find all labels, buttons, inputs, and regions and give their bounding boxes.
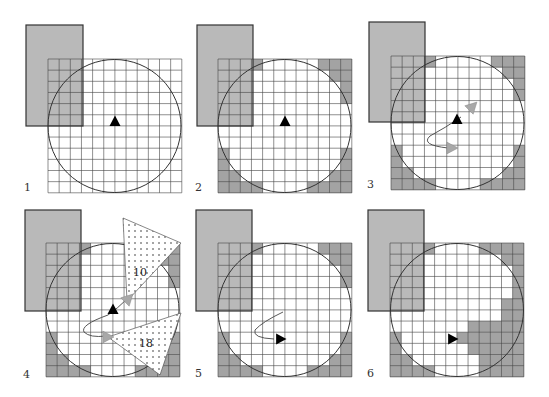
shaded-cell [502,310,513,321]
shaded-cell [330,171,341,182]
shaded-cell [468,343,479,354]
shaded-cell [502,355,513,366]
shaded-cell [490,321,501,332]
shaded-cell [57,366,68,377]
shaded-cell [479,366,490,377]
shaded-cell [341,59,352,70]
panels-group: 1231018456 [23,22,525,381]
shaded-cell [251,366,262,377]
obstacle-rect [368,210,424,311]
shaded-cell [79,366,90,377]
shaded-cell [341,265,352,276]
shaded-cell [424,179,435,190]
panel-6: 6 [367,210,524,380]
panel-number-label: 6 [367,367,374,380]
shaded-cell [169,366,180,377]
shaded-cell [229,182,240,193]
shaded-cell [169,254,180,265]
panel-4: 10184 [23,210,181,381]
shaded-cell [341,159,352,170]
shaded-cell [490,343,501,354]
panel-1: 1 [24,25,182,194]
shaded-cell [46,355,57,366]
shaded-cell [514,67,525,78]
shaded-cell [46,366,57,377]
shaded-cell [330,182,341,193]
shaded-cell [218,366,229,377]
shaded-cell [390,355,401,366]
shaded-cell [514,78,525,89]
shaded-cell [401,355,412,366]
shaded-cell [514,179,525,190]
panel-number-label: 2 [195,181,202,194]
shaded-cell [330,243,341,254]
shaded-cell [341,343,352,354]
obstacle-rect [25,210,81,311]
shaded-cell [423,243,434,254]
shaded-cell [513,366,524,377]
shaded-cell [502,254,513,265]
shaded-cell [330,355,341,366]
shaded-cell [402,179,413,190]
shaded-cell [218,355,229,366]
shaded-cell [468,332,479,343]
shaded-cell [341,254,352,265]
view-cone-label: 10 [133,266,147,279]
panel-number-label: 3 [367,178,374,191]
shaded-cell [502,299,513,310]
panel-number-label: 4 [23,368,30,381]
shaded-cell [502,366,513,377]
shaded-cell [513,343,524,354]
shaded-cell [251,243,262,254]
shaded-cell [229,171,240,182]
shaded-cell [341,171,352,182]
shaded-cell [391,168,402,179]
shaded-cell [513,243,524,254]
panel-3: 3 [367,22,525,191]
shaded-cell [513,332,524,343]
shaded-cell [503,168,514,179]
shaded-cell [491,179,502,190]
shaded-cell [57,355,68,366]
shaded-cell [502,243,513,254]
shaded-cell [412,366,423,377]
obstacle-rect [197,25,253,126]
shaded-cell [424,56,435,67]
shaded-cell [514,56,525,67]
shaded-cell [490,243,501,254]
shaded-cell [457,332,468,343]
shaded-cell [514,156,525,167]
shaded-cell [490,332,501,343]
shaded-cell [390,332,401,343]
shaded-cell [218,171,229,182]
shaded-cell [341,355,352,366]
shaded-cell [423,366,434,377]
shaded-cell [513,276,524,287]
shaded-cell [229,355,240,366]
shaded-cell [341,182,352,193]
shaded-cell [391,179,402,190]
shaded-cell [468,321,479,332]
shaded-cell [330,254,341,265]
shaded-cell [330,366,341,377]
shaded-cell [318,243,329,254]
shaded-cell [390,343,401,354]
shaded-cell [341,243,352,254]
shaded-cell [169,355,180,366]
shaded-cell [218,182,229,193]
shaded-cell [479,321,490,332]
shaded-cell [341,366,352,377]
shaded-cell [318,182,329,193]
shaded-cell [503,56,514,67]
shaded-cell [503,67,514,78]
shaded-cell [513,254,524,265]
panel-2: 2 [195,25,352,194]
shaded-cell [513,265,524,276]
shaded-cell [502,332,513,343]
shaded-cell [318,366,329,377]
shaded-cell [490,366,501,377]
panel-5: 5 [195,210,352,380]
shaded-cell [513,355,524,366]
shaded-cell [479,243,490,254]
shaded-cell [502,321,513,332]
